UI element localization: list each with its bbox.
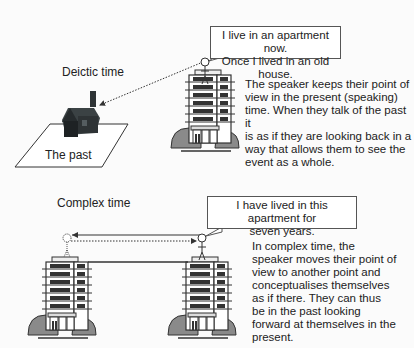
speech-line: I have lived in this apartment for [212,199,352,225]
desc-line: event as a whole. [245,156,414,169]
speech-bubble-complex: I have lived in this apartment for seven… [207,196,357,229]
desc-line: be in the past looking [252,305,396,318]
complex-heading: Complex time [57,196,130,210]
speech-line: seven years. [212,225,352,238]
desc-line: forward at themselves in the [252,318,396,331]
desc-line: speaker moves their point of [252,253,396,266]
desc-line: time. When they talk of the past it [245,104,414,130]
deictic-description: The speaker keeps their point of view in… [245,78,414,169]
desc-line: The speaker keeps their point of [245,78,414,91]
desc-line: way that allows them to see the [245,143,414,156]
desc-line: view to another point and [252,266,396,279]
desc-line: view in the present (speaking) [245,91,414,104]
desc-line: In complex time, the [252,240,396,253]
desc-line: present. [252,331,396,344]
complex-description: In complex time, the speaker moves their… [252,240,396,344]
past-label: The past [45,148,92,162]
desc-line: conceptualises themselves [252,279,396,292]
speech-bubble-deictic: I live in an apartment now. Once I lived… [210,26,341,59]
desc-line: is as if they are looking back in a [245,130,414,143]
deictic-heading: Deictic time [62,65,124,79]
house-icon [62,91,100,137]
desc-line: as if there. They can thus [252,292,396,305]
speech-line: I live in an apartment now. [215,29,336,55]
